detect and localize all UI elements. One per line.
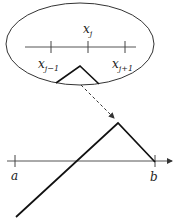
diagram-canvas: xj xj−1 xj+1 a b bbox=[0, 0, 181, 224]
label-a: a bbox=[11, 169, 18, 183]
label-xj-plus-1: xj+1 bbox=[112, 57, 133, 73]
inset-hat-function bbox=[56, 66, 99, 84]
global-hat-function bbox=[16, 123, 155, 217]
label-b: b bbox=[150, 170, 158, 184]
label-xj-minus-1: xj−1 bbox=[38, 57, 59, 73]
connector-dashed-arrow bbox=[81, 85, 114, 118]
label-xj: xj bbox=[83, 22, 93, 38]
